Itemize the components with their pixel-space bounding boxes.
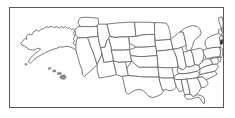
state-WA[interactable] <box>78 17 98 26</box>
hawaii-inset[interactable] <box>48 67 66 79</box>
island-oahu[interactable] <box>53 70 56 72</box>
island-molokai-maui[interactable] <box>57 72 61 74</box>
island-hawaii[interactable] <box>60 75 67 80</box>
alaska-aleutian-dot <box>25 63 27 65</box>
contiguous-states[interactable] <box>75 17 223 104</box>
state-SD[interactable] <box>129 34 156 47</box>
state-NE[interactable] <box>130 46 157 56</box>
state-TX[interactable] <box>122 76 163 98</box>
state-NJ[interactable] <box>220 47 223 58</box>
state-WY[interactable] <box>109 36 130 50</box>
us-map-figure <box>0 0 235 118</box>
island-kauai[interactable] <box>48 67 51 69</box>
us-map-svg[interactable] <box>10 8 223 107</box>
state-CO[interactable] <box>112 50 132 63</box>
state-MA[interactable] <box>220 35 223 40</box>
state-ME[interactable] <box>219 17 223 29</box>
state-OR[interactable] <box>75 26 98 38</box>
state-MT[interactable] <box>107 22 136 37</box>
state-AR[interactable] <box>158 67 174 78</box>
state-MN[interactable] <box>155 23 171 41</box>
map-frame-border <box>9 7 224 108</box>
state-FL[interactable] <box>185 94 205 104</box>
